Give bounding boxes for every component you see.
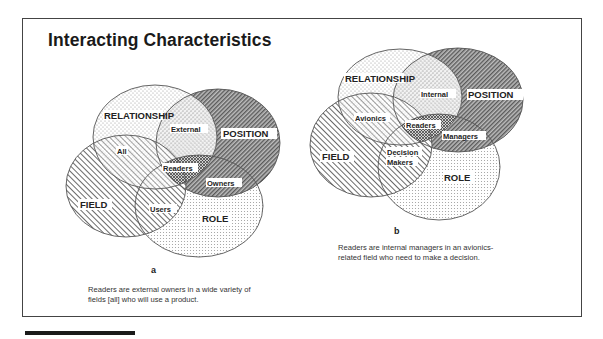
caption-a-line-2: fields [all] who will use a product. [88,295,308,305]
label-readers-b: Readers [406,121,436,130]
caption-b-line-1: Readers are internal managers in an avio… [338,243,558,253]
caption-b-line-2: related field who need to make a decisio… [338,253,558,263]
caption-a-line-1: Readers are external owners in a wide va… [88,285,308,295]
label-role-a: ROLE [202,213,228,224]
label-users: Users [150,205,171,214]
label-internal: Internal [421,90,448,99]
caption-b: Readers are internal managers in an avio… [338,243,558,263]
label-role-b: ROLE [444,172,470,183]
label-field-b: FIELD [322,151,350,162]
label-relationship-a: RELATIONSHIP [104,110,175,121]
label-relationship-b: RELATIONSHIP [345,73,416,84]
label-managers: Managers [443,132,478,141]
venn-diagram-a: RELATIONSHIP POSITION FIELD ROLE Externa… [66,85,280,257]
label-position-a: POSITION [223,128,269,139]
label-external: External [171,125,201,134]
label-readers-a: Readers [163,164,193,173]
label-field-a: FIELD [80,199,108,210]
label-all: All [117,147,127,156]
caption-a: Readers are external owners in a wide va… [88,285,308,305]
venn-diagram-b: RELATIONSHIP POSITION FIELD ROLE Interna… [310,48,523,220]
panel-letter-b: b [394,226,400,236]
panel-letter-a: a [151,265,156,275]
footer-rule [25,331,135,335]
label-avionics: Avionics [355,114,386,123]
label-makers: Makers [387,158,413,167]
label-position-b: POSITION [468,89,514,100]
label-decision: Decision [387,148,419,157]
label-owners: Owners [207,179,235,188]
